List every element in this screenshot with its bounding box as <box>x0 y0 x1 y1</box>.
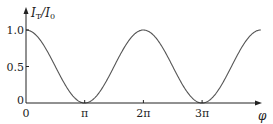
x-axis-arrow-icon <box>255 101 262 106</box>
x-tick-label: 0 <box>23 107 30 120</box>
y-axis-arrow-icon <box>24 7 29 14</box>
y-tick-label: 0 <box>17 94 24 107</box>
transmission-chart: 00.51.0 0π2π3π IT/I0 φ <box>0 0 273 124</box>
x-axis-label: φ <box>258 109 267 123</box>
x-tick-label: 3π <box>195 107 209 120</box>
cos-squared-curve <box>26 30 261 103</box>
y-axis-label: IT/I0 <box>30 6 55 21</box>
x-tick-label: 2π <box>136 107 150 120</box>
x-tick-label: π <box>81 107 88 120</box>
y-tick-label: 0.5 <box>7 61 25 74</box>
y-tick-label: 1.0 <box>7 24 25 37</box>
